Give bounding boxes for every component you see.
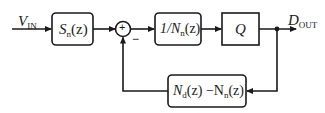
block-feedback-label: Nd(z) −Nn(z) bbox=[173, 84, 244, 100]
input-label: VIN bbox=[18, 14, 37, 31]
output-node-dot bbox=[275, 27, 280, 32]
fb-nn-arg: (z) bbox=[228, 83, 244, 98]
feedback-path-down bbox=[247, 29, 277, 91]
inv-nn-arg: (z) bbox=[185, 21, 201, 36]
minus-sign: − bbox=[132, 33, 139, 45]
fb-nd-symbol: N bbox=[173, 83, 182, 98]
output-subscript: OUT bbox=[299, 20, 318, 30]
output-label: DOUT bbox=[288, 13, 317, 30]
sn-arg: (z) bbox=[71, 21, 88, 37]
inv-nn-symbol: 1/N bbox=[160, 21, 180, 36]
input-symbol: V bbox=[18, 13, 27, 29]
sn-symbol: S bbox=[59, 21, 67, 37]
block-diagram bbox=[0, 0, 325, 113]
block-sn-label: Sn(z) bbox=[59, 22, 88, 39]
plus-sign: + bbox=[119, 22, 125, 33]
output-symbol: D bbox=[288, 12, 299, 28]
input-subscript: IN bbox=[27, 21, 37, 31]
fb-mid: (z) −N bbox=[187, 83, 224, 98]
block-inv-nn-label: 1/Nn(z) bbox=[160, 22, 200, 38]
block-quantizer-label: Q bbox=[235, 22, 246, 37]
